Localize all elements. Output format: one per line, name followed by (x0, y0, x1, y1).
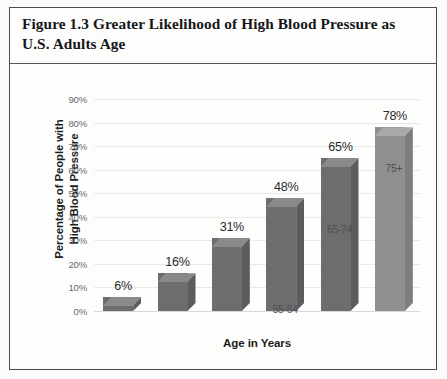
bar-45-54[interactable]: 31%45-54 (212, 238, 250, 311)
bar-65-74[interactable]: 65%65-74 (321, 158, 359, 311)
bar-face-side (405, 127, 413, 311)
figure-container: Figure 1.3 Greater Likelihood of High Bl… (0, 0, 447, 379)
bar-body (212, 238, 250, 311)
gridline (94, 193, 420, 194)
bar-value-label: 6% (101, 279, 145, 293)
bar-55-64[interactable]: 48%55-64 (266, 198, 304, 311)
y-axis-tick-label: 40% (68, 211, 87, 222)
x-axis-tick-label: 55-64 (259, 304, 311, 315)
gridline (94, 240, 420, 241)
figure-title: Figure 1.3 Greater Likelihood of High Bl… (22, 14, 425, 54)
y-axis-tick-label: 70% (68, 141, 87, 152)
y-axis-tick-label: 60% (68, 164, 87, 175)
bar-face-front (212, 238, 242, 311)
plot-area: 0%10%20%30%40%50%60%70%80%90%6%18-3416%3… (94, 99, 420, 311)
figure-title-box: Figure 1.3 Greater Likelihood of High Bl… (9, 7, 437, 64)
bar-body (103, 297, 141, 311)
y-axis-tick-label: 30% (68, 235, 87, 246)
gridline (94, 123, 420, 124)
y-axis-tick-label: 90% (68, 94, 87, 105)
gridline (94, 99, 420, 100)
chart-area: Percentage of People with High Blood Pre… (10, 65, 436, 369)
bar-value-label: 16% (156, 255, 200, 269)
y-axis-tick-label: 0% (74, 306, 87, 317)
bar-value-label: 78% (373, 109, 417, 123)
bar-body (158, 273, 196, 311)
gridline (94, 217, 420, 218)
y-axis-tick-label: 80% (68, 117, 87, 128)
x-axis-title: Age in Years (94, 336, 420, 349)
bar-face-side (242, 238, 250, 311)
bar-face-side (296, 198, 304, 311)
bar-value-label: 48% (264, 180, 308, 194)
x-axis-tick-label: 75+ (368, 163, 420, 174)
bar-body (266, 198, 304, 311)
bar-value-label: 65% (319, 140, 363, 154)
bar-face-front (266, 198, 296, 311)
x-axis-tick-label: 65-74 (314, 224, 366, 235)
bar-value-label: 31% (210, 220, 254, 234)
y-axis-tick-label: 50% (68, 188, 87, 199)
bar-75+[interactable]: 78%75+ (375, 127, 413, 311)
bar-face-front (375, 127, 405, 311)
gridline (94, 311, 420, 312)
y-axis-tick-label: 10% (68, 282, 87, 293)
y-axis-title-line1: Percentage of People with (52, 89, 67, 289)
gridline (94, 264, 420, 265)
gridline (94, 146, 420, 147)
y-axis-tick-label: 20% (68, 258, 87, 269)
bar-35-44[interactable]: 16%35-44 (158, 273, 196, 311)
bar-18-34[interactable]: 6%18-34 (103, 297, 141, 311)
bar-body (375, 127, 413, 311)
